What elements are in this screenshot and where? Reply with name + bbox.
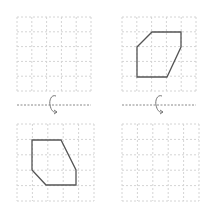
right-rotation-axis	[122, 96, 196, 114]
left-rotation-axis	[17, 96, 91, 114]
grid-panel-bottom-left	[17, 124, 94, 201]
hexagon-shape	[32, 140, 76, 185]
grid-panel-top-left	[17, 17, 91, 91]
rotation-arrow-icon	[156, 96, 163, 113]
hexagon-shape	[137, 32, 181, 77]
grid-panel-bottom-right	[122, 124, 199, 201]
rotation-arrow-icon	[50, 96, 57, 113]
grid-panel-top-right	[122, 17, 196, 91]
rotation-diagram	[0, 0, 211, 209]
